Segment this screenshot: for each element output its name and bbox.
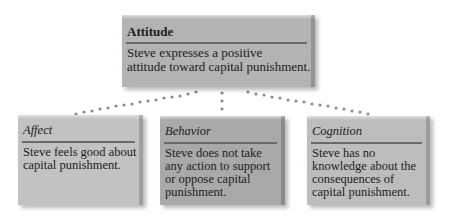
bevel-highlight bbox=[18, 115, 143, 119]
bevel-highlight bbox=[160, 116, 285, 120]
attitude-title: Attitude bbox=[127, 25, 173, 39]
behavior-text: Steve does not take any action to suppor… bbox=[165, 147, 270, 199]
cognition-title: Cognition bbox=[312, 124, 362, 138]
title-rule bbox=[22, 141, 135, 143]
affect-box: Affect Steve feels good about capital pu… bbox=[18, 115, 143, 205]
cognition-box: Cognition Steve has no knowledge about t… bbox=[307, 116, 430, 205]
bevel-highlight bbox=[122, 15, 315, 19]
bevel-shadow bbox=[426, 116, 430, 205]
attitude-box: Attitude Steve expresses a positive atti… bbox=[122, 15, 315, 87]
bevel-shadow bbox=[139, 115, 143, 205]
attitude-text: Steve expresses a positive attitude towa… bbox=[127, 46, 310, 73]
title-rule bbox=[164, 142, 277, 144]
title-rule bbox=[311, 142, 422, 144]
behavior-box: Behavior Steve does not take any action … bbox=[160, 116, 285, 205]
connector-dots bbox=[74, 90, 369, 115]
behavior-title: Behavior bbox=[165, 124, 211, 138]
bevel-highlight bbox=[307, 116, 430, 120]
bevel-shadow bbox=[311, 15, 315, 87]
title-rule bbox=[126, 42, 307, 44]
bevel-shadow bbox=[281, 116, 285, 205]
affect-text: Steve feels good about capital punishmen… bbox=[23, 146, 137, 172]
affect-title: Affect bbox=[23, 123, 52, 137]
cognition-text: Steve has no knowledge about the consequ… bbox=[312, 147, 416, 199]
